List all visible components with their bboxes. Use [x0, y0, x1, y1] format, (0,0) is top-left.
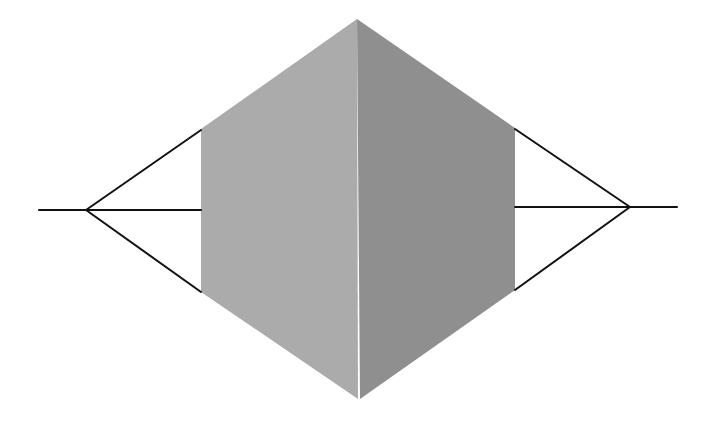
prism-projection-diagram: [0, 0, 714, 431]
diagram-canvas: [0, 0, 714, 431]
